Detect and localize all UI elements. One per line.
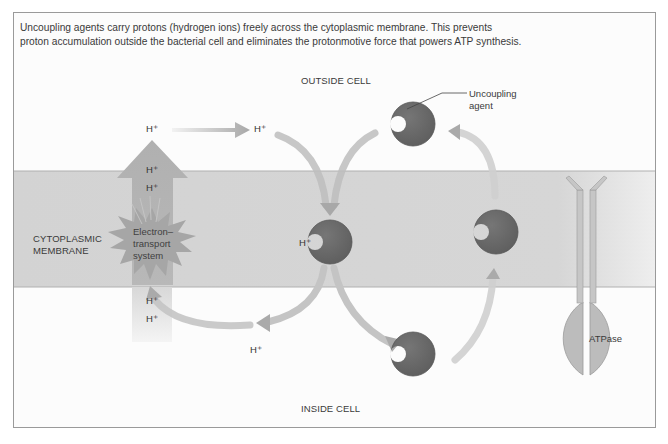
proton-inside-2: H⁺: [146, 313, 158, 324]
proton-inside-1: H⁺: [146, 295, 158, 306]
proton-top-right: H⁺: [254, 123, 266, 134]
electron-transport-label: Electron– transport system: [133, 226, 173, 262]
uncoupling-agent-bottom: [391, 332, 435, 376]
outside-cell-label: OUTSIDE CELL: [301, 75, 371, 86]
membrane-label: CYTOPLASMIC MEMBRANE: [33, 233, 102, 257]
proton-top-left: H⁺: [146, 123, 158, 134]
proton-arrow-2: H⁺: [146, 182, 158, 193]
uncoupling-agent-right: [474, 210, 518, 254]
proton-arrow-1: H⁺: [146, 164, 158, 175]
uncoupling-agent-label: Uncoupling agent: [469, 88, 517, 112]
proton-transfer-arrow: [172, 122, 250, 138]
diagram-graphic: [0, 0, 668, 444]
inside-cell-label: INSIDE CELL: [301, 403, 360, 414]
atpase-label: ATPase: [589, 333, 622, 345]
uncoupling-agent-top: [391, 102, 435, 146]
uncoupling-agent-center: [308, 220, 352, 264]
proton-bound: H⁺: [299, 237, 311, 248]
proton-bottom: H⁺: [250, 344, 262, 355]
